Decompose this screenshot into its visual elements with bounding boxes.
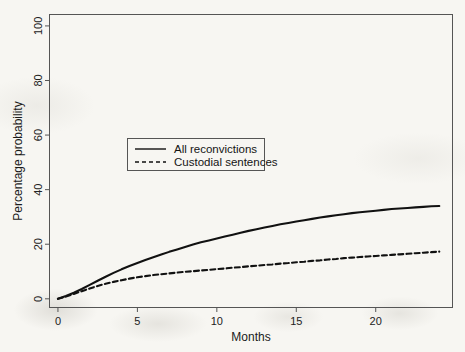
y-tick-label: 20	[32, 238, 44, 250]
series-line-all-reconvictions	[58, 206, 439, 299]
y-tick-label: 100	[32, 17, 44, 35]
y-axis-title: Percentage probability	[11, 101, 25, 220]
y-tick-label: 0	[32, 296, 44, 302]
survival-curve-chart: 020406080100 05101520 Months Percentage …	[0, 0, 465, 352]
x-axis-tick-labels: 05101520	[55, 315, 382, 327]
y-axis-tick-labels: 020406080100	[32, 17, 44, 302]
chart-screenshot: 020406080100 05101520 Months Percentage …	[0, 0, 465, 352]
chart-legend: All reconvictions Custodial sentences	[128, 139, 278, 171]
x-tick-label: 20	[370, 315, 382, 327]
y-tick-label: 60	[32, 129, 44, 141]
x-tick-label: 5	[134, 315, 140, 327]
y-tick-label: 80	[32, 74, 44, 86]
legend-label-all-reconvictions: All reconvictions	[174, 143, 257, 155]
legend-label-custodial-sentences: Custodial sentences	[174, 156, 278, 168]
data-series-group	[58, 206, 439, 299]
y-tick-label: 40	[32, 184, 44, 196]
x-axis-title: Months	[231, 330, 270, 344]
series-line-custodial-sentences	[58, 252, 439, 299]
x-tick-label: 0	[55, 315, 61, 327]
x-tick-label: 15	[290, 315, 302, 327]
x-tick-label: 10	[211, 315, 223, 327]
